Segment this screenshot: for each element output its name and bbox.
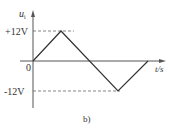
- figure-caption: b): [83, 114, 91, 124]
- x-axis-label: t/s: [155, 64, 164, 74]
- x-axis-arrow-icon: [159, 59, 166, 63]
- y-axis-arrow-icon: [31, 10, 35, 17]
- waveform-diagram: ui +12V 0 -12V t/s b): [0, 0, 173, 132]
- origin-label: 0: [26, 62, 31, 73]
- neg-level-label: -12V: [4, 86, 25, 97]
- pos-level-label: +12V: [5, 26, 29, 37]
- y-axis-label: ui: [19, 8, 26, 20]
